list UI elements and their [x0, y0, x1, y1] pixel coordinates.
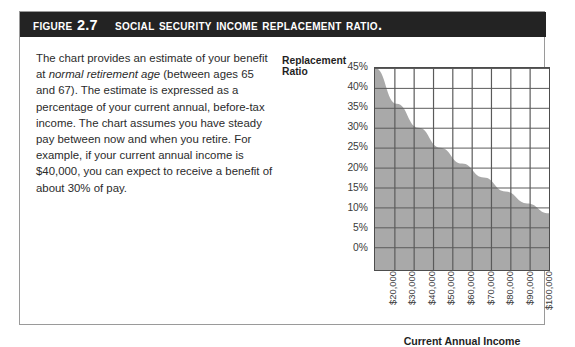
- figure-title: Social Security income replacement ratio…: [115, 17, 382, 33]
- x-tick-label: $40,000: [427, 271, 436, 327]
- x-tick-label: $30,000: [407, 271, 416, 327]
- y-tick-label: 20%: [334, 163, 368, 173]
- area-chart-svg: [375, 68, 549, 270]
- y-tick-label: 45%: [334, 62, 368, 72]
- y-tick-label: 35%: [334, 102, 368, 112]
- y-tick-label: 30%: [334, 122, 368, 132]
- x-tick-label: $100,000: [544, 271, 553, 327]
- y-tick-label: 0%: [334, 243, 368, 253]
- x-axis-title: Current Annual Income: [362, 335, 562, 347]
- x-tick-label: $20,000: [388, 271, 397, 327]
- plot-area: [374, 67, 550, 271]
- figure-banner: Figure 2.7 Social Security income replac…: [20, 12, 546, 37]
- y-tick-label: 15%: [334, 183, 368, 193]
- figure-number: Figure 2.7: [33, 17, 98, 33]
- x-tick-label: $50,000: [446, 271, 455, 327]
- y-tick-label: 10%: [334, 203, 368, 213]
- figure-description: The chart provides an estimate of your b…: [36, 50, 274, 196]
- x-axis-tick-labels: $20,000$30,000$40,000$50,000$60,000$70,0…: [374, 273, 550, 329]
- x-tick-label: $60,000: [466, 271, 475, 327]
- chart: Replacement Ratio 45%40%35%30%25%20%15%1…: [282, 45, 542, 317]
- figure-container: Figure 2.7 Social Security income replac…: [19, 11, 545, 325]
- y-tick-label: 5%: [334, 223, 368, 233]
- y-axis-tick-labels: 45%40%35%30%25%20%15%10%5%0%: [330, 45, 368, 275]
- description-part-two: (between ages 65 and 67). The estimate i…: [36, 68, 272, 193]
- x-tick-label: $80,000: [505, 271, 514, 327]
- description-emphasis: normal retirement age: [49, 68, 160, 80]
- y-tick-label: 40%: [334, 82, 368, 92]
- x-tick-label: $90,000: [525, 271, 534, 327]
- y-tick-label: 25%: [334, 142, 368, 152]
- x-tick-label: $70,000: [486, 271, 495, 327]
